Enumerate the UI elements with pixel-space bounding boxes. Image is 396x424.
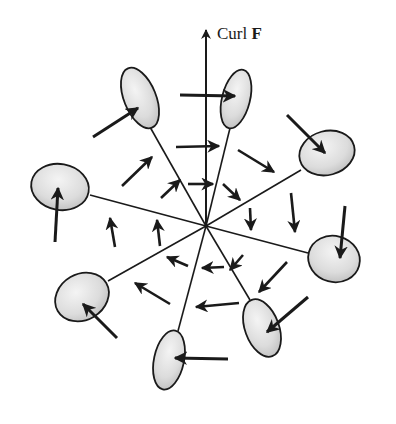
curl-diagram: Curl F [0, 0, 396, 424]
stem-line [90, 195, 206, 226]
disc-right-bottom [303, 206, 365, 288]
disc-ellipse [215, 67, 257, 132]
disc-ellipse [303, 230, 365, 288]
curl-field-figure [0, 0, 396, 424]
paddle-discs [27, 62, 365, 392]
field-arrow [161, 180, 180, 198]
stem-line [206, 128, 230, 226]
curl-label-text: Curl [217, 24, 251, 43]
disc-ellipse [27, 159, 92, 214]
disc-lower-right [236, 294, 308, 362]
stem-line [206, 226, 308, 253]
field-arrow [202, 267, 224, 268]
disc-upper-right [180, 67, 257, 132]
disc-bottom [148, 328, 228, 393]
stem-line [206, 226, 250, 300]
disc-ellipse [236, 294, 288, 362]
stem-line [206, 170, 301, 226]
disc-upper-left [93, 62, 167, 137]
field-arrow [157, 220, 160, 246]
field-arrow [238, 150, 274, 172]
field-arrow [122, 157, 152, 186]
disc-ellipse [148, 328, 190, 393]
field-arrow [223, 184, 240, 200]
disc-lower-left [46, 263, 117, 338]
disc-ellipse [113, 62, 167, 133]
field-arrow [135, 283, 170, 304]
field-arrow [259, 262, 287, 292]
field-arrow [230, 255, 243, 270]
field-arrow [250, 208, 251, 230]
field-arrow [110, 218, 115, 247]
disc-left [27, 159, 92, 242]
vector-field-arrows [110, 146, 295, 307]
field-arrow [167, 257, 188, 266]
stems-layer [90, 127, 308, 331]
curl-f-label: Curl F [217, 24, 262, 44]
disc-arrow [175, 358, 228, 359]
disc-ellipse [46, 263, 117, 331]
field-arrow [196, 303, 239, 307]
stem-line [150, 127, 206, 226]
field-arrow [176, 146, 219, 147]
stem-line [178, 226, 206, 331]
curl-label-vector: F [251, 24, 261, 43]
field-arrow [291, 193, 295, 232]
disc-arrow [93, 108, 138, 137]
disc-arrow [180, 95, 235, 96]
stem-line [108, 226, 206, 281]
